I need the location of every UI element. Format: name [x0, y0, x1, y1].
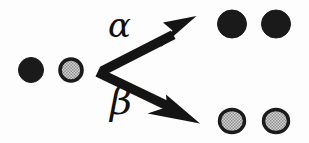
reactant-filled-circle: [19, 58, 44, 83]
arrow-beta-shaft: [96, 68, 173, 112]
product-alpha-filled-circle-2: [262, 10, 291, 38]
branching-reaction-diagram: α β: [0, 0, 309, 143]
reactant-pair: [19, 58, 83, 83]
alpha-branch-label: α: [108, 8, 131, 42]
product-beta-stippled-circle-2: [264, 110, 289, 133]
beta-branch-label: β: [110, 82, 132, 120]
product-pair-alpha: [218, 10, 291, 38]
arrow-alpha-head: [161, 16, 197, 48]
diagram-canvas: [0, 0, 309, 143]
product-alpha-filled-circle-1: [218, 10, 247, 38]
product-beta-stippled-circle-1: [220, 110, 245, 133]
reactant-stippled-circle: [60, 59, 82, 81]
product-pair-beta: [220, 110, 289, 133]
